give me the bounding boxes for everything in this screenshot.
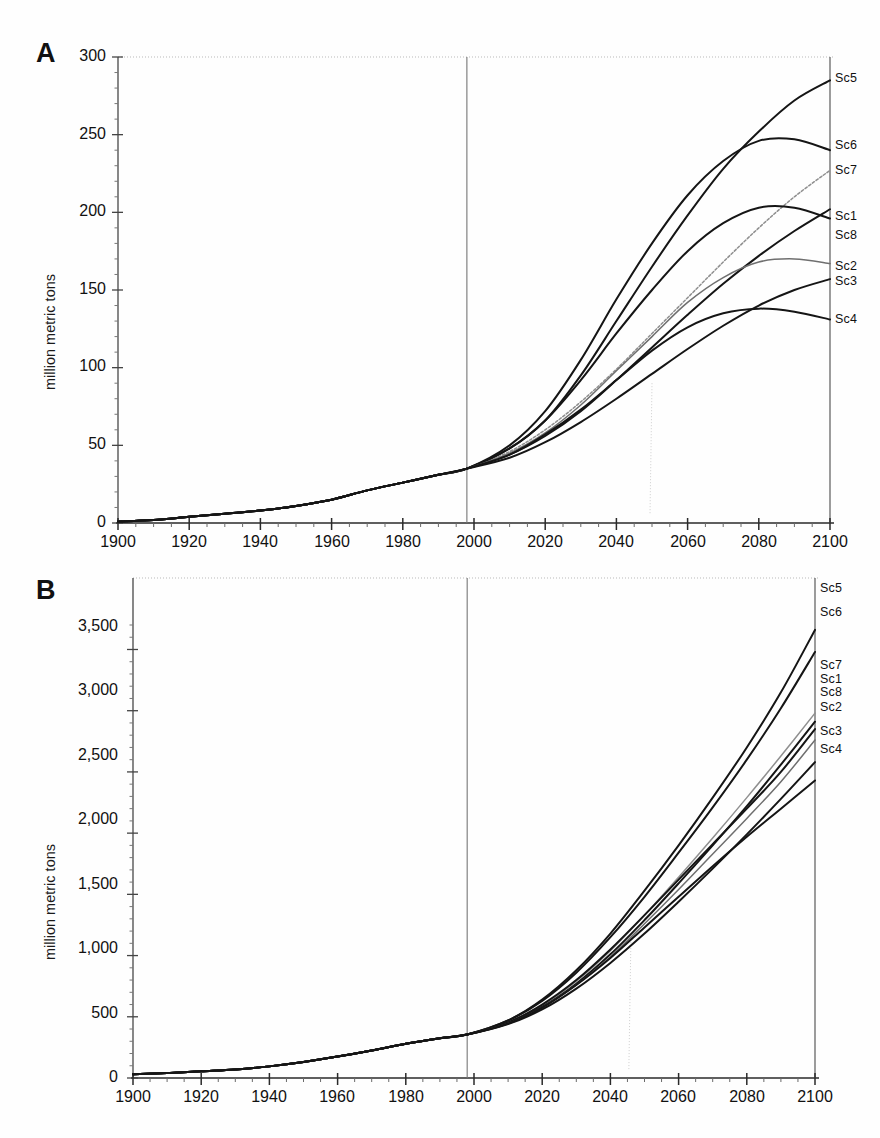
panel-a: A million metric tons 0 50 100 150 200 2… [0,0,880,565]
panel-b-plot [0,555,880,1138]
panel-b: B million metric tons 0 500 1,000 1,500 … [0,555,880,1138]
figure-page: A million metric tons 0 50 100 150 200 2… [0,0,880,1138]
panel-a-plot [0,0,880,565]
